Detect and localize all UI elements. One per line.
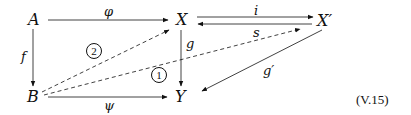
label-g: g (186, 37, 194, 50)
arrow-dashed-b-xprime (44, 29, 300, 95)
region-marker-two: 2 (86, 43, 102, 59)
region-marker-one: 1 (151, 67, 167, 83)
label-psi: ψ (104, 99, 114, 112)
label-i: i (254, 4, 258, 17)
label-f: f (21, 50, 26, 63)
node-x: X (176, 12, 187, 28)
label-s: s (253, 26, 260, 39)
commutative-diagram: A B X Y X′ φ f g ψ i s g′ 2 1 (V.15) (0, 0, 411, 115)
diagram-arrows (0, 0, 411, 115)
label-phi: φ (104, 5, 113, 18)
equation-number: (V.15) (356, 93, 389, 106)
node-x-prime: X′ (317, 13, 332, 29)
label-g-prime: g′ (263, 64, 274, 77)
arrow-dashed-b-x (42, 30, 169, 92)
node-a: A (28, 12, 40, 28)
node-b: B (27, 89, 39, 105)
node-y: Y (175, 89, 186, 105)
